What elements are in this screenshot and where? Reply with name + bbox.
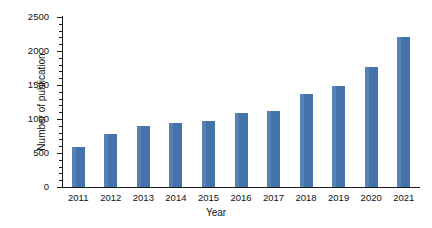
y-tick-minor bbox=[59, 126, 63, 127]
y-tick-minor bbox=[59, 133, 63, 134]
bar bbox=[332, 86, 345, 187]
y-axis-title-container: Number of publication bbox=[14, 17, 28, 187]
y-tick-major: 1500 bbox=[57, 85, 63, 86]
x-tick-label: 2017 bbox=[263, 193, 284, 203]
y-tick-minor bbox=[59, 78, 63, 79]
y-tick-minor bbox=[59, 92, 63, 93]
bar bbox=[137, 126, 150, 187]
x-tick-label: 2015 bbox=[198, 193, 219, 203]
y-tick-label: 2000 bbox=[28, 46, 49, 56]
bar bbox=[169, 123, 182, 187]
y-tick-minor bbox=[59, 31, 63, 32]
x-tick-label: 2014 bbox=[165, 193, 186, 203]
y-tick-label: 1500 bbox=[28, 80, 49, 90]
x-axis-title: Year bbox=[0, 207, 432, 218]
bar bbox=[300, 94, 313, 188]
x-axis-line bbox=[62, 187, 420, 188]
x-tick-label: 2019 bbox=[328, 193, 349, 203]
bar bbox=[397, 37, 410, 187]
y-tick-minor bbox=[59, 160, 63, 161]
y-tick-minor bbox=[59, 44, 63, 45]
x-tick-label: 2021 bbox=[393, 193, 414, 203]
y-tick-minor bbox=[59, 180, 63, 181]
y-tick-minor bbox=[59, 65, 63, 66]
plot-area: 05001000150020002500 bbox=[62, 17, 420, 187]
x-tick-label: 2011 bbox=[68, 193, 88, 203]
x-tick-label: 2012 bbox=[100, 193, 121, 203]
x-tick-label: 2013 bbox=[133, 193, 154, 203]
y-tick-major: 2500 bbox=[57, 17, 63, 18]
y-tick-minor bbox=[59, 167, 63, 168]
bar bbox=[267, 111, 280, 187]
y-tick-minor bbox=[59, 139, 63, 140]
y-tick-label: 0 bbox=[44, 182, 49, 192]
x-tick-label: 2020 bbox=[361, 193, 382, 203]
y-tick-major: 500 bbox=[57, 153, 63, 154]
y-tick-minor bbox=[59, 112, 63, 113]
y-tick-major: 1000 bbox=[57, 119, 63, 120]
publication-bar-chart: Number of publication 050010001500200025… bbox=[0, 0, 432, 228]
y-tick-minor bbox=[59, 71, 63, 72]
y-tick-minor bbox=[59, 58, 63, 59]
bar bbox=[365, 67, 378, 187]
y-tick-minor bbox=[59, 146, 63, 147]
y-tick-minor bbox=[59, 37, 63, 38]
y-tick-minor bbox=[59, 24, 63, 25]
bar bbox=[235, 113, 248, 187]
bar bbox=[202, 121, 215, 187]
y-tick-label: 500 bbox=[33, 148, 49, 158]
y-tick-major: 2000 bbox=[57, 51, 63, 52]
y-tick-minor bbox=[59, 173, 63, 174]
y-tick-label: 1000 bbox=[28, 114, 49, 124]
y-tick-minor bbox=[59, 105, 63, 106]
y-tick-major: 0 bbox=[57, 187, 63, 188]
y-tick-minor bbox=[59, 99, 63, 100]
x-tick-label: 2016 bbox=[230, 193, 251, 203]
x-tick-label: 2018 bbox=[296, 193, 317, 203]
y-tick-label: 2500 bbox=[28, 12, 49, 22]
bar bbox=[72, 147, 85, 187]
bar bbox=[104, 134, 117, 187]
y-axis-title: Number of publication bbox=[36, 17, 47, 187]
